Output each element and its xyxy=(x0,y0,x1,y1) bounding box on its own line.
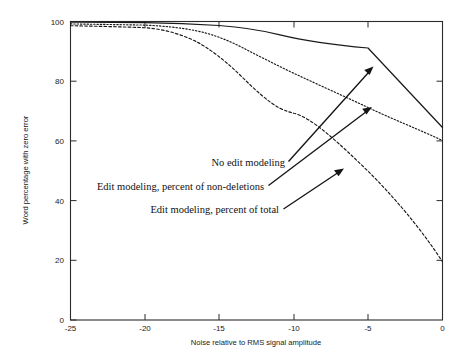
y-axis-title: Word percentage with zero error xyxy=(21,115,30,224)
x-tick-label-4: -5 xyxy=(364,324,372,333)
y-tick-label-1: 20 xyxy=(55,256,64,265)
y-tick-label-0: 0 xyxy=(60,316,65,325)
x-tick-label-5: 0 xyxy=(440,324,445,333)
y-tick-label-4: 80 xyxy=(55,77,64,86)
x-tick-label-1: -20 xyxy=(139,324,151,333)
y-tick-label-3: 60 xyxy=(55,137,64,146)
x-axis-title: Noise relative to RMS signal amplitude xyxy=(191,338,321,347)
chart-figure: -25 -20 -15 -10 -5 0 0 20 40 60 80 100 N… xyxy=(0,0,471,354)
x-tick-label-2: -15 xyxy=(213,324,225,333)
y-tick-label-5: 100 xyxy=(51,18,65,27)
y-tick-label-2: 40 xyxy=(55,197,64,206)
chart-svg: -25 -20 -15 -10 -5 0 0 20 40 60 80 100 N… xyxy=(0,0,471,354)
annotation-label-percent-of-total: Edit modeling, percent of total xyxy=(150,204,279,215)
annotation-label-percent-of-non-deletions: Edit modeling, percent of non-deletions xyxy=(97,181,264,192)
x-tick-label-3: -10 xyxy=(288,324,300,333)
x-tick-label-0: -25 xyxy=(65,324,77,333)
annotation-label-no-edit-modeling: No edit modeling xyxy=(212,157,286,168)
